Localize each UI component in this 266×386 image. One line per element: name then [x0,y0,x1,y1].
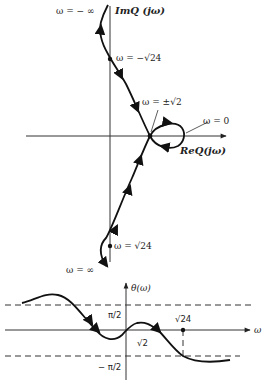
label-w-pm-sqrt2: ω = ±√2 [142,97,182,107]
label-w-minus-inf: ω = − ∞ [56,6,95,16]
nyquist-upper-branch [100,5,150,136]
nyquist-plot: ImQ (jω) ReQ(jω) ω = − ∞ ω = −√24 ω = ±√… [26,5,230,275]
direction-arrow [139,156,141,162]
point-w-sqrt24 [108,244,112,248]
direction-arrow [165,122,171,123]
diagram-canvas: ImQ (jω) ReQ(jω) ω = − ∞ ω = −√24 ω = ±√… [0,0,266,386]
point-w-pm-sqrt2 [148,134,153,139]
direction-arrow [161,146,166,147]
point-sqrt24 [181,328,185,332]
theta-axis-label: θ(ω) [131,283,151,293]
label-minus-pi-over-2: − π/2 [98,362,121,372]
label-sqrt24: √24 [175,314,191,324]
label-w-inf: ω = ∞ [66,265,94,275]
direction-arrow [114,226,117,232]
real-axis-label: ReQ(jω) [179,145,226,156]
label-w-zero: ω = 0 [203,116,230,126]
point-w-minus-sqrt24 [108,57,112,61]
imag-axis-label: ImQ (jω) [114,5,165,16]
label-sqrt2: √2 [137,338,148,348]
omega-axis-label: ω [254,325,262,335]
direction-arrow [104,262,107,266]
label-pi-over-2: π/2 [108,310,121,320]
label-w-sqrt24: ω = √24 [114,241,152,251]
direction-arrow [100,26,101,34]
direction-arrow [157,329,160,332]
phase-plot: θ(ω) ω π/2 − π/2 √2 √24 [5,283,262,380]
label-w-minus-sqrt24: ω = −√24 [116,53,162,63]
